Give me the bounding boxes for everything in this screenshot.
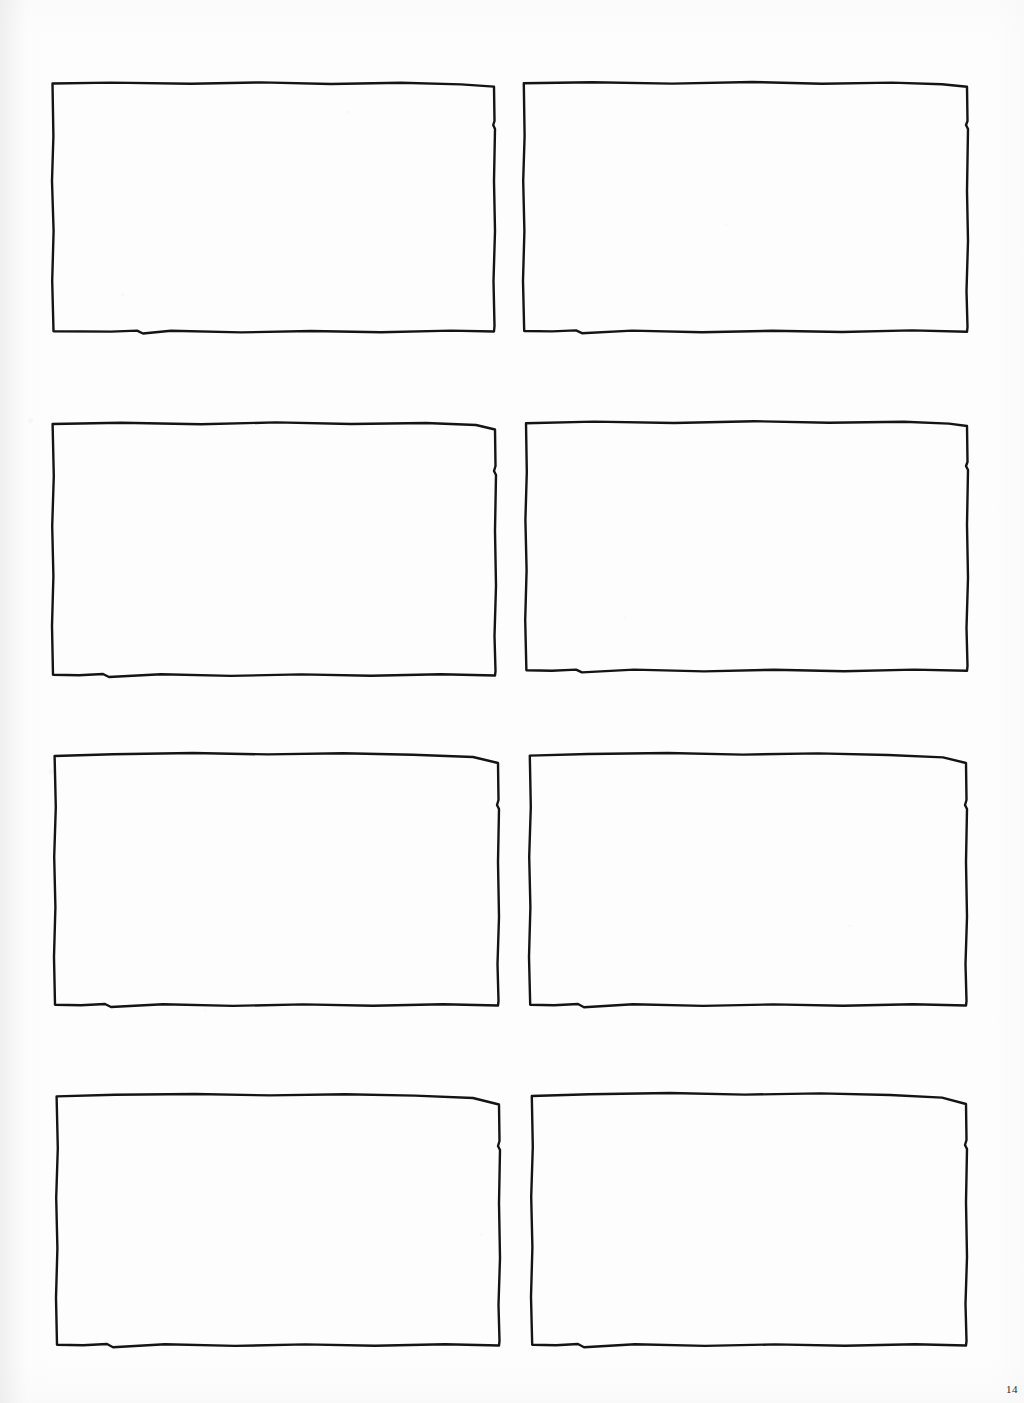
figure-frame-3[interactable] [51, 421, 497, 678]
figure-frame-grid [0, 0, 1024, 1403]
figure-frame-8-outline [530, 1092, 968, 1348]
scanned-page: 14 [0, 0, 1024, 1403]
figure-frame-5-outline [53, 752, 500, 1008]
figure-frame-6[interactable] [528, 752, 968, 1008]
figure-frame-2-outline [522, 81, 969, 334]
figure-frame-7[interactable] [55, 1093, 501, 1348]
figure-frame-4[interactable] [524, 420, 969, 673]
figure-frame-1-outline [51, 81, 496, 334]
figure-frame-2[interactable] [522, 81, 969, 334]
figure-frame-1[interactable] [51, 81, 496, 334]
figure-frame-6-outline [528, 752, 968, 1008]
figure-frame-4-outline [524, 420, 969, 673]
figure-frame-5[interactable] [53, 752, 500, 1008]
page-number: 14 [1006, 1383, 1022, 1395]
figure-frame-8[interactable] [530, 1092, 968, 1348]
figure-frame-3-outline [51, 421, 497, 678]
figure-frame-7-outline [55, 1093, 501, 1348]
